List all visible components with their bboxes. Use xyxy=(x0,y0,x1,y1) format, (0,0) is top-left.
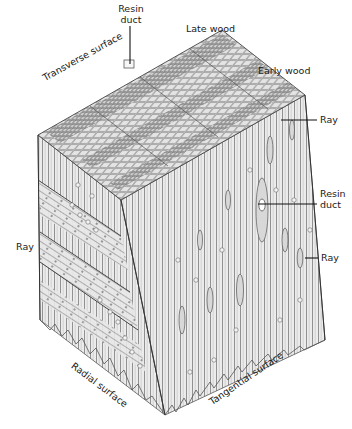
wood-block-diagram: Resin duct Late wood Transverse surface … xyxy=(0,0,352,429)
label-resin-duct-right-line1: Resin xyxy=(320,188,346,199)
label-late-wood: Late wood xyxy=(186,23,235,34)
label-resin-duct-right-line2: duct xyxy=(320,199,346,210)
label-ray-right-bottom: Ray xyxy=(321,252,339,263)
label-resin-duct-top: Resin duct xyxy=(116,3,146,25)
label-ray-left: Ray xyxy=(16,241,34,252)
label-resin-duct-right: Resin duct xyxy=(320,188,346,210)
label-early-wood: Early wood xyxy=(258,65,310,76)
label-ray-right-top: Ray xyxy=(320,114,338,125)
label-resin-duct-top-line2: duct xyxy=(116,14,146,25)
label-resin-duct-top-line1: Resin xyxy=(116,3,146,14)
